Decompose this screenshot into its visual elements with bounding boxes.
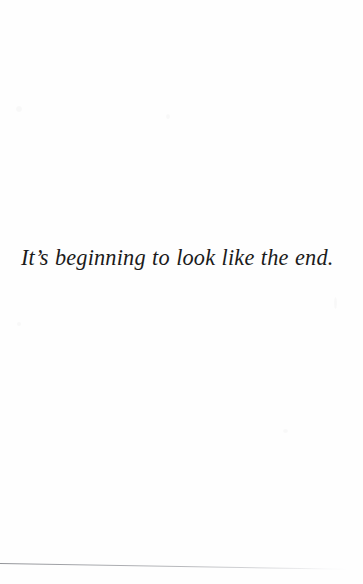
scan-speck: [17, 322, 21, 326]
scan-speck: [16, 106, 22, 112]
scanned-page: It’s beginning to look like the end.: [0, 0, 363, 584]
scan-speck: [166, 114, 170, 119]
quote-text: It’s beginning to look like the end.: [21, 243, 346, 273]
scan-speck: [283, 429, 288, 433]
page-edge-scan-line: [0, 563, 348, 570]
paper-background: [0, 0, 363, 584]
scan-speck: [334, 297, 337, 309]
